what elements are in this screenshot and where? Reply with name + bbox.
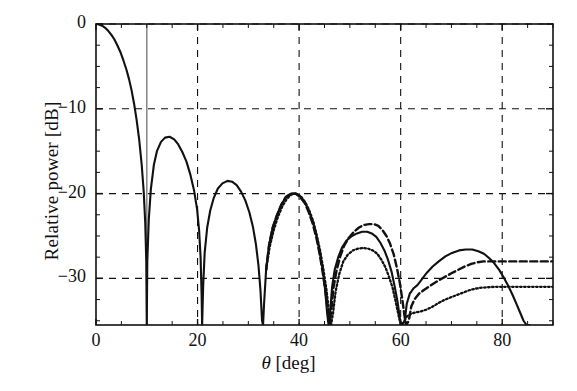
y-tick-label: −20 [26, 182, 86, 203]
x-axis-label: θ [deg] [0, 352, 577, 374]
x-tick-label: 40 [274, 330, 324, 351]
series-line-solid [96, 24, 530, 325]
x-tick-label: 80 [477, 330, 527, 351]
data-series-group [96, 24, 553, 325]
y-tick-label: 0 [26, 12, 86, 33]
x-tick-label: 60 [376, 330, 426, 351]
x-tick-label: 0 [71, 330, 121, 351]
x-axis-unit: [deg] [271, 352, 316, 373]
series-line-dashed [266, 194, 553, 325]
theta-symbol: θ [261, 352, 270, 373]
figure: Relative power [dB] θ [deg] 0−10−20−30 0… [0, 0, 577, 391]
y-tick-label: −10 [26, 97, 86, 118]
y-tick-label: −30 [26, 266, 86, 287]
x-tick-label: 20 [173, 330, 223, 351]
